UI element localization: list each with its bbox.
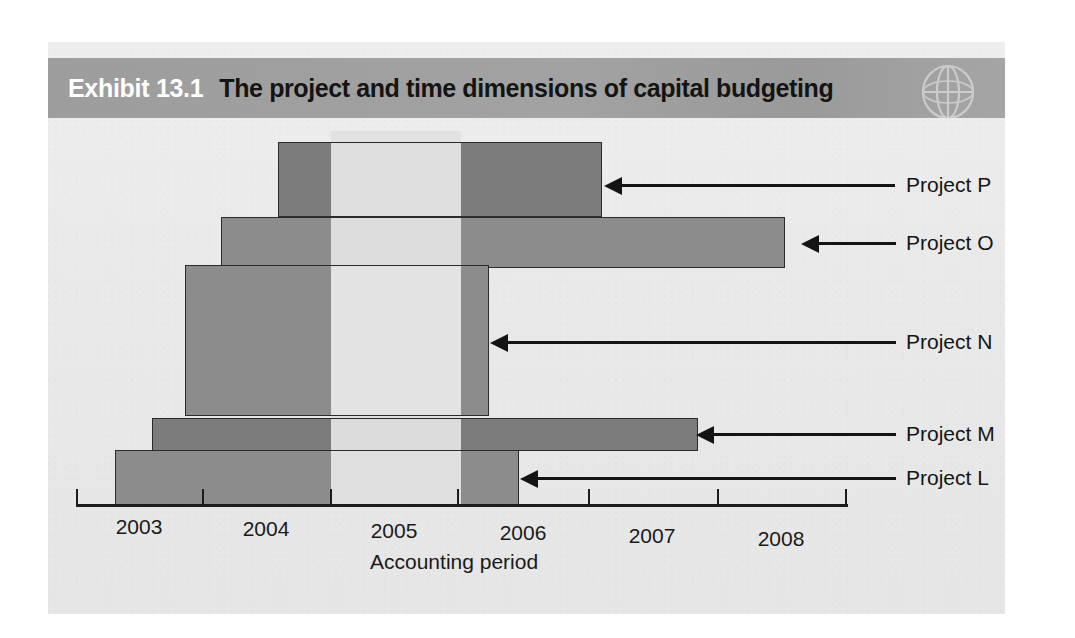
exhibit-title: The project and time dimensions of capit… bbox=[219, 74, 833, 103]
exhibit-header: Exhibit 13.1 The project and time dimens… bbox=[48, 58, 1005, 118]
exhibit-number: Exhibit 13.1 bbox=[68, 74, 203, 103]
exhibit-panel bbox=[48, 42, 1005, 614]
exhibit-page: Exhibit 13.1 The project and time dimens… bbox=[0, 0, 1075, 638]
paper-texture bbox=[48, 42, 1005, 614]
exhibit-header-inner: Exhibit 13.1 The project and time dimens… bbox=[48, 58, 1005, 118]
globe-icon bbox=[913, 63, 983, 121]
